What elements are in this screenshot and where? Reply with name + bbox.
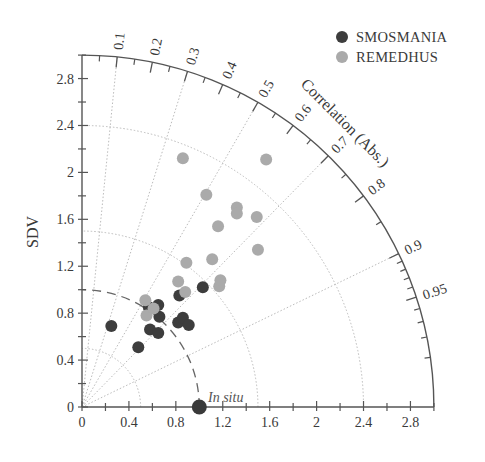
correlation-minor-tick — [421, 337, 427, 338]
sdv-grid-arc — [82, 348, 141, 407]
correlation-minor-tick — [400, 269, 405, 271]
correlation-minor-tick — [418, 321, 424, 322]
legend: SMOSMANIA REMEDHUS — [336, 29, 448, 65]
y-tick-label: 0.4 — [57, 353, 75, 368]
data-point — [231, 207, 243, 219]
correlation-minor-tick — [307, 140, 311, 144]
data-point — [152, 327, 164, 339]
correlation-minor-tick — [404, 278, 409, 280]
y-tick-label: 0 — [67, 400, 74, 415]
data-point — [251, 211, 263, 223]
correlation-minor-tick — [342, 174, 346, 178]
legend-marker-remedhus — [336, 51, 348, 63]
data-point — [105, 320, 117, 332]
correlation-outer-arc — [82, 55, 434, 407]
correlation-major-tick — [406, 297, 416, 300]
correlation-minor-tick — [397, 261, 402, 263]
correlation-minor-tick — [425, 357, 431, 358]
data-point — [214, 274, 226, 286]
correlation-major-tick — [321, 156, 328, 164]
data-point — [177, 152, 189, 164]
correlation-minor-tick — [169, 66, 170, 72]
data-point — [132, 341, 144, 353]
data-points — [105, 152, 272, 414]
x-tick-label: 1.2 — [214, 415, 232, 430]
data-point — [212, 220, 224, 232]
correlation-minor-tick — [407, 287, 413, 289]
sdv-grid-arc — [82, 125, 364, 407]
y-tick-label: 1.2 — [57, 259, 75, 274]
y-tick-label: 1.6 — [57, 212, 75, 227]
reference-label: In situ — [207, 390, 243, 405]
correlation-minor-tick — [134, 59, 135, 65]
legend-label-remedhus: REMEDHUS — [356, 49, 438, 65]
x-tick-label: 0.8 — [167, 415, 185, 430]
correlation-major-tick — [287, 125, 293, 133]
correlation-tick-label: 0.95 — [421, 281, 449, 303]
correlation-grid-line — [82, 71, 188, 407]
data-point — [200, 189, 212, 201]
correlation-tick-label: 0.5 — [255, 77, 277, 100]
correlation-tick-label: 0.8 — [365, 176, 388, 199]
correlation-major-tick — [355, 196, 363, 202]
y-tick-label: 2 — [67, 165, 74, 180]
correlation-major-tick — [253, 102, 258, 111]
y-axis-title: SDV — [24, 216, 41, 248]
correlation-major-tick — [116, 57, 117, 68]
data-point — [206, 253, 218, 265]
y-tick-label: 0.8 — [57, 306, 75, 321]
legend-label-smosmania: SMOSMANIA — [356, 29, 448, 45]
data-point — [183, 319, 195, 331]
data-point — [172, 275, 184, 287]
data-point — [180, 257, 192, 269]
series-smosmania — [105, 281, 208, 353]
x-tick-label: 0.4 — [120, 415, 138, 430]
reference-point — [192, 400, 207, 415]
correlation-minor-tick — [272, 113, 275, 118]
correlation-grid-line — [82, 254, 399, 407]
x-tick-label: 1.6 — [261, 415, 279, 430]
correlation-minor-tick — [414, 308, 420, 310]
correlation-major-tick — [389, 254, 399, 259]
correlation-major-tick — [150, 62, 152, 72]
series-remedhus — [139, 152, 272, 321]
correlation-tick-label: 0.6 — [292, 102, 315, 125]
data-point — [260, 153, 272, 165]
legend-marker-smosmania — [336, 31, 348, 43]
y-tick-label: 2.8 — [57, 72, 75, 87]
correlation-tick-label: 0.1 — [111, 32, 128, 51]
sdv-grid-arc — [82, 231, 258, 407]
data-point — [179, 286, 191, 298]
x-tick-label: 0 — [79, 415, 86, 430]
x-tick-label: 2.4 — [355, 415, 373, 430]
x-tick-label: 2.8 — [402, 415, 420, 430]
axes-layer: 000.40.40.80.81.21.21.61.6222.42.42.82.8… — [57, 32, 449, 430]
x-tick-label: 2 — [313, 415, 320, 430]
correlation-tick-label: 0.2 — [147, 37, 165, 57]
y-tick-label: 2.4 — [57, 118, 75, 133]
correlation-major-tick — [184, 71, 187, 81]
data-point — [148, 302, 160, 314]
correlation-tick-label: 0.3 — [183, 46, 203, 67]
correlation-axis-title: Correlation (Abs.) — [297, 75, 393, 171]
data-point — [197, 281, 209, 293]
correlation-major-tick — [219, 84, 223, 94]
correlation-minor-tick — [238, 93, 241, 98]
correlation-minor-tick — [203, 77, 205, 82]
data-point — [252, 244, 264, 256]
correlation-tick-label: 0.4 — [219, 59, 240, 81]
taylor-diagram: 000.40.40.80.81.21.21.61.6222.42.42.82.8… — [0, 0, 485, 462]
grid-layer — [82, 57, 399, 407]
correlation-minor-tick — [376, 222, 381, 225]
correlation-tick-label: 0.9 — [402, 237, 424, 258]
